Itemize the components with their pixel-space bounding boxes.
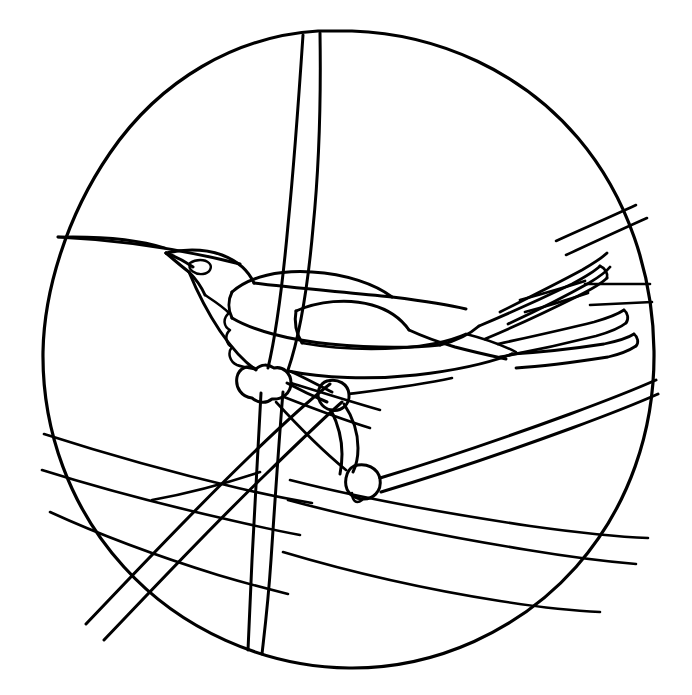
artwork-canvas [0, 0, 692, 695]
bird-line-art-svg [0, 0, 692, 695]
